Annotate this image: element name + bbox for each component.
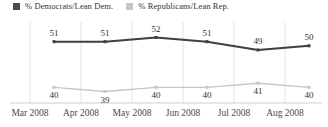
x-axis-label: May 2008 [113,108,152,118]
value-label: 49 [254,36,264,46]
value-label: 41 [254,86,263,96]
republicans-swatch-icon [126,3,133,10]
x-axis-label: Mar 2008 [11,108,48,118]
data-point-marker [257,48,260,51]
x-axis-label: Jul 2008 [218,108,251,118]
value-label: 40 [152,90,162,100]
value-label: 51 [101,28,110,38]
value-label: 40 [203,90,213,100]
series-line [54,38,309,50]
legend-label-republicans: % Republicans/Lean Rep. [138,1,229,11]
party-affiliation-trend-chart: % Democrats/Lean Dem. % Republicans/Lean… [0,0,328,127]
line-chart-canvas: Mar 2008Apr 2008May 2008Jun 2008Jul 2008… [0,0,328,127]
data-point-marker [308,44,311,47]
legend-item-republicans: % Republicans/Lean Rep. [126,1,229,11]
legend-item-democrats: % Democrats/Lean Dem. [13,1,113,11]
x-axis-label: Jun 2008 [166,108,201,118]
data-point-marker [206,40,209,43]
value-label: 40 [305,90,315,100]
data-point-marker [206,86,209,89]
value-label: 50 [305,32,315,42]
data-point-marker [155,86,158,89]
data-point-marker [53,40,56,43]
data-point-marker [104,90,107,93]
value-label: 52 [152,24,161,34]
x-axis-label: Apr 2008 [63,108,99,118]
data-point-marker [104,40,107,43]
data-point-marker [155,36,158,39]
x-axis-label: Aug 2008 [266,108,304,118]
value-label: 39 [101,95,111,105]
legend-label-democrats: % Democrats/Lean Dem. [25,1,113,11]
democrats-swatch-icon [13,3,20,10]
data-point-marker [308,86,311,89]
data-point-marker [257,82,260,85]
chart-legend: % Democrats/Lean Dem. % Republicans/Lean… [13,1,229,11]
data-point-marker [53,86,56,89]
value-label: 51 [203,28,212,38]
value-label: 51 [50,28,59,38]
series-line [54,83,309,91]
value-label: 40 [50,90,60,100]
